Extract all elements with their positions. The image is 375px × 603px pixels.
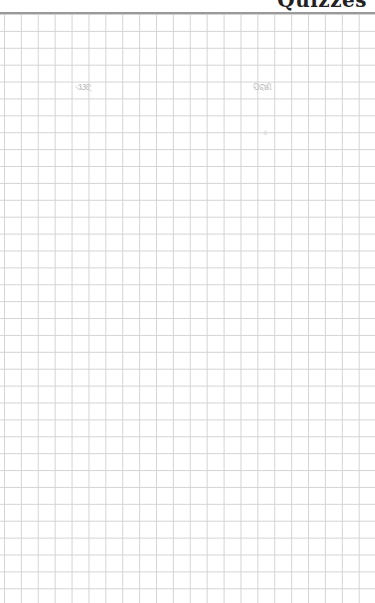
faint-mark: ଃ (258, 129, 266, 137)
faint-scribble-right: ପରାଣ (253, 82, 271, 93)
page-header-text: Quizzes (277, 0, 367, 12)
graph-grid (0, 14, 375, 603)
graph-paper-page: Quizzes ଏଓବ୍‌ ପରାଣ ଃ (0, 0, 375, 603)
faint-scribble-left: ଏଓବ୍‌ (75, 82, 90, 93)
